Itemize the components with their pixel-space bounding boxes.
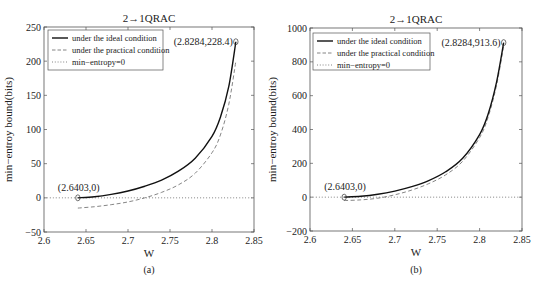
y-axis-label: min−entroy bound(bits) <box>2 77 15 182</box>
y-tick-label: 200 <box>26 56 41 67</box>
y-tick-label: 250 <box>26 22 41 33</box>
x-tick-label: 2.8 <box>473 234 486 245</box>
x-tick-label: 2.85 <box>513 234 531 245</box>
y-tick-label: 0 <box>302 192 307 203</box>
x-tick-label: 2.7 <box>389 234 402 245</box>
x-tick-label: 2.7 <box>122 235 135 246</box>
x-tick-label: 2.65 <box>77 235 95 246</box>
legend-label: under the practical condition <box>72 45 170 55</box>
plot-panel-b: 2.62.652.72.752.82.85−200020040060080010… <box>266 13 531 276</box>
x-tick-label: 2.75 <box>161 235 179 246</box>
y-tick-label: −50 <box>25 227 41 238</box>
plot-title: 2→1QRAC <box>390 13 443 25</box>
annotation-label: (2.6403,0) <box>324 181 366 193</box>
y-tick-label: 150 <box>26 90 41 101</box>
y-tick-label: 400 <box>292 124 307 135</box>
x-tick-label: 2.8 <box>206 235 219 246</box>
legend-label: min−entropy=0 <box>72 57 125 67</box>
y-tick-label: 600 <box>292 90 307 101</box>
legend-label: under the ideal condition <box>72 33 157 43</box>
legend-label: under the practical condition <box>337 48 435 58</box>
figure: 2.62.652.72.752.82.85−500501001502002502… <box>0 0 545 284</box>
y-tick-label: 50 <box>31 158 41 169</box>
y-tick-label: 800 <box>292 56 307 67</box>
y-tick-label: −200 <box>286 226 307 237</box>
series-practical-line <box>78 61 236 208</box>
y-axis-label: min−entroy bound(bits) <box>266 77 279 182</box>
annotation-label: (2.8284,913.6) <box>442 37 501 49</box>
panel-caption: (b) <box>410 264 422 276</box>
y-tick-label: 100 <box>26 124 41 135</box>
x-axis-label: W <box>144 247 155 259</box>
plot-panel-a: 2.62.652.72.752.82.85−500501001502002502… <box>2 12 263 276</box>
x-tick-label: 2.85 <box>245 235 263 246</box>
y-tick-label: 0 <box>36 192 41 203</box>
x-axis-label: W <box>411 246 422 258</box>
plot-title: 2→1QRAC <box>123 12 176 24</box>
panel-caption: (a) <box>143 264 154 276</box>
y-tick-label: 1000 <box>287 23 307 34</box>
legend-label: min−entropy=0 <box>337 60 390 70</box>
annotation-label: (2.8284,228.4) <box>174 36 233 48</box>
legend-label: under the ideal condition <box>337 36 422 46</box>
y-tick-label: 200 <box>292 158 307 169</box>
annotation-label: (2.6403,0) <box>58 182 100 194</box>
x-tick-label: 2.65 <box>344 234 362 245</box>
x-tick-label: 2.75 <box>428 234 446 245</box>
